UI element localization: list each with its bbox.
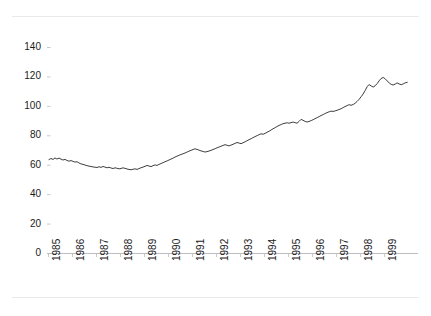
x-tick-label: 1988 [124, 239, 134, 261]
x-tick-label: 1992 [220, 239, 230, 261]
y-tick-label: 60 [15, 160, 41, 170]
y-tick-label: 140 [15, 42, 41, 52]
x-tick-label: 1991 [196, 239, 206, 261]
x-tick-label: 1990 [172, 239, 182, 261]
y-tick-marks [47, 48, 51, 254]
x-tick-label: 1986 [76, 239, 86, 261]
y-tick-label: 20 [15, 219, 41, 229]
data-series-line [49, 77, 407, 169]
line-chart-plot [0, 0, 431, 316]
x-tick-label: 1996 [316, 239, 326, 261]
x-tick-label: 1994 [268, 239, 278, 261]
x-tick-label: 1987 [100, 239, 110, 261]
x-tick-label: 1998 [364, 239, 374, 261]
y-tick-label: 80 [15, 130, 41, 140]
x-tick-label: 1989 [148, 239, 158, 261]
y-tick-label: 40 [15, 189, 41, 199]
chart-figure: 140120100806040200 198519861987198819891… [0, 0, 431, 316]
x-tick-label: 1997 [340, 239, 350, 261]
x-tick-label: 1999 [388, 239, 398, 261]
x-tick-label: 1985 [52, 239, 62, 261]
y-tick-label: 100 [15, 101, 41, 111]
x-tick-label: 1995 [292, 239, 302, 261]
x-tick-label: 1993 [244, 239, 254, 261]
y-tick-label: 0 [15, 248, 41, 258]
y-tick-label: 120 [15, 71, 41, 81]
